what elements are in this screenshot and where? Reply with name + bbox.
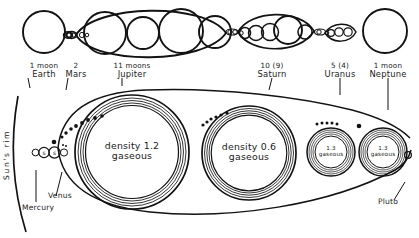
suns-rim-label: Sun's rim — [2, 130, 11, 180]
moon-system-saturn — [238, 15, 314, 49]
earth-name-label: Earth — [32, 70, 55, 79]
uranus-density-line2: gaseous — [319, 151, 344, 157]
moon-system-neptune — [363, 9, 407, 53]
jupiter-name-label: Jupiter — [118, 70, 147, 79]
moon-system-uranus — [325, 24, 356, 41]
pluto-label: Pluto — [378, 198, 398, 206]
venus-label: Venus — [48, 192, 72, 200]
jupiter-density-label: density 1.2 gaseous — [105, 141, 159, 161]
mercury-label: Mercury — [22, 204, 54, 212]
saturn-density-label: density 0.6 gaseous — [222, 142, 276, 162]
svg-text:s: s — [42, 149, 45, 156]
svg-text:s: s — [53, 149, 56, 156]
moon-system-earth — [23, 11, 73, 53]
jupiter-density-line2: gaseous — [105, 151, 159, 161]
neptune-density-line2: gaseous — [371, 151, 396, 157]
moon-system-bridge-jupiter-saturn — [226, 29, 238, 35]
neptune-name-label: Neptune — [369, 70, 406, 79]
saturn-density-line2: gaseous — [222, 152, 276, 162]
inner-planets-group: s s — [32, 140, 68, 158]
mars-name-label: Mars — [66, 70, 87, 79]
uranus-density-label: 1.3 gaseous — [319, 145, 344, 158]
diagram-artwork: .ink{fill:none;stroke:#121212;} .w2{stro… — [0, 0, 419, 238]
saturn-name-label: Saturn — [258, 70, 287, 79]
figure-canvas: .ink{fill:none;stroke:#121212;} .w2{stro… — [0, 0, 419, 238]
moon-system-bridge-saturn-uranus — [315, 29, 326, 35]
neptune-density-label: 1.3 gaseous — [371, 145, 396, 158]
uranus-name-label: Uranus — [325, 70, 356, 79]
moon-system-jupiter — [76, 9, 231, 57]
